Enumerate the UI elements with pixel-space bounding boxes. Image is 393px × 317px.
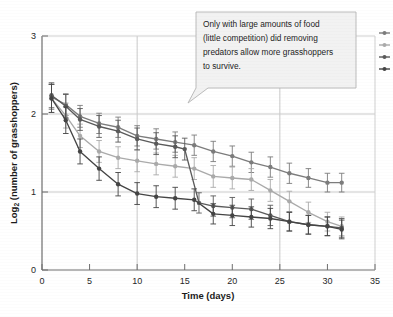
data-point: [173, 164, 177, 168]
y-tick-label: 2: [31, 109, 36, 119]
callout-line-2: (little competition) did removing: [203, 33, 318, 43]
data-point: [306, 210, 310, 214]
y-tick-label: 0: [31, 265, 36, 275]
data-point: [192, 198, 196, 202]
x-tick-label: 5: [87, 276, 92, 286]
data-point: [211, 174, 215, 178]
y-tick-label: 3: [31, 31, 36, 41]
data-point: [135, 137, 139, 141]
y-axis-label-rest: (number of grasshoppers): [8, 82, 19, 203]
x-axis-label: Time (days): [182, 290, 235, 301]
x-tick-label: 10: [132, 276, 142, 286]
data-point: [116, 129, 120, 133]
data-point: [154, 141, 158, 145]
data-point: [211, 212, 215, 216]
data-point: [116, 182, 120, 186]
data-point: [306, 223, 310, 227]
grasshopper-population-figure: 05101520253035 0123 Time (days) Log2 (nu…: [0, 0, 393, 317]
data-point: [325, 224, 329, 228]
data-point: [230, 213, 234, 217]
data-point: [249, 215, 253, 219]
x-tick-label: 15: [180, 276, 190, 286]
data-point: [268, 216, 272, 220]
data-point: [78, 149, 82, 153]
data-point: [211, 149, 215, 153]
data-point: [49, 96, 53, 100]
data-point: [287, 171, 291, 175]
data-point: [173, 196, 177, 200]
data-point: [183, 147, 187, 151]
data-point: [154, 162, 158, 166]
data-point: [287, 199, 291, 203]
x-tick-label: 25: [275, 276, 285, 286]
legend-marker-2: [383, 55, 387, 59]
data-point: [230, 176, 234, 180]
data-point: [249, 177, 253, 181]
data-point: [230, 154, 234, 158]
x-tick-label: 30: [322, 276, 332, 286]
data-point: [192, 143, 196, 147]
y-axis-label-base: Log: [8, 206, 19, 224]
callout-line-1: Only with large amounts of food: [203, 19, 320, 29]
data-point: [135, 191, 139, 195]
data-point: [340, 180, 344, 184]
data-point: [64, 118, 68, 122]
y-tick-label: 1: [31, 187, 36, 197]
legend-marker-3: [383, 67, 387, 71]
data-point: [116, 155, 120, 159]
data-point: [340, 227, 344, 231]
data-point: [97, 149, 101, 153]
x-tick-label: 20: [227, 276, 237, 286]
legend-marker-1: [383, 43, 387, 47]
data-point: [325, 180, 329, 184]
callout-line-4: to survive.: [203, 61, 241, 71]
y-axis-label-group: Log2 (number of grasshoppers): [8, 82, 20, 224]
data-point: [154, 194, 158, 198]
data-point: [135, 159, 139, 163]
data-point: [249, 160, 253, 164]
legend-marker-0: [383, 31, 387, 35]
x-tick-label: 35: [370, 276, 380, 286]
data-point: [192, 166, 196, 170]
data-point: [97, 124, 101, 128]
data-point: [306, 176, 310, 180]
data-point: [97, 166, 101, 170]
data-point: [78, 117, 82, 121]
y-axis-label: Log2 (number of grasshoppers): [8, 82, 20, 224]
chart-canvas: 05101520253035 0123 Time (days) Log2 (nu…: [0, 0, 393, 317]
data-point: [287, 219, 291, 223]
data-point: [173, 145, 177, 149]
data-point: [78, 134, 82, 138]
callout-line-3: predators allow more grasshoppers: [203, 47, 333, 57]
data-point: [268, 188, 272, 192]
data-point: [268, 165, 272, 169]
x-tick-label: 0: [39, 276, 44, 286]
